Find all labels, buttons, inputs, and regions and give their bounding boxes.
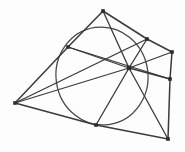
vertex-point-C [170, 50, 174, 54]
cevian-PH [68, 47, 129, 68]
chord-layer [15, 39, 170, 103]
polygon-edge-FG [15, 103, 96, 125]
polygon-edge-HA [68, 11, 103, 47]
vertex-point-D [168, 77, 172, 81]
vertex-point-B [145, 37, 149, 41]
geometry-figure [0, 0, 185, 152]
vertex-point-H [66, 45, 70, 49]
polygon-edge-BC [147, 39, 172, 52]
polygon-edge-DE [168, 79, 170, 139]
cevian-PD [129, 68, 170, 79]
cevian-PC [129, 52, 172, 68]
vertex-point-A [101, 9, 105, 13]
vertex-point-P [127, 66, 131, 70]
geometry-canvas [0, 0, 185, 152]
vertex-point-G [13, 101, 17, 105]
vertex-point-F [94, 123, 98, 127]
polygon-edge-CD [170, 52, 172, 79]
vertex-layer [13, 9, 174, 141]
vertex-point-E [166, 137, 170, 141]
polygon-edge-EF [96, 125, 168, 139]
